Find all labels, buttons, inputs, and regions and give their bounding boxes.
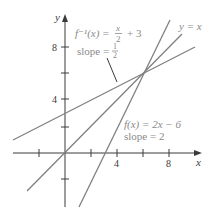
inverse-fraction-num: x [115,23,120,33]
y-axis-arrow-icon [62,14,68,22]
graph-canvas: 4 8 4 8 x y f⁻¹(x) = x 2 + 3 slope = 1 2… [0,0,216,215]
line-identity [27,34,182,191]
x-tick-label-4: 4 [114,158,119,169]
x-tick-label-8: 8 [166,158,171,169]
inverse-tail: + 3 [127,27,142,39]
y-tick-label-4: 4 [52,94,57,105]
inverse-function-label: f⁻¹(x) = [75,27,110,40]
x-axis-label: x [195,156,201,168]
inverse-slope-den: 2 [113,51,117,60]
inverse-slope-label: slope = [77,45,109,57]
inverse-slope-num: 1 [113,42,117,51]
identity-label: y = x [178,20,202,32]
slope-half-pointer [107,58,117,82]
y-tick-label-8: 8 [52,42,57,53]
y-axis-label: y [54,11,60,23]
function-slope-label: slope = 2 [124,130,164,142]
